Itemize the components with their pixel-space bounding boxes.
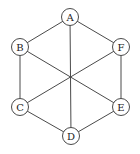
node-a: A (62, 9, 79, 26)
node-b: B (12, 39, 29, 56)
edges-layer (20, 17, 121, 136)
node-label: F (118, 42, 125, 53)
node-label: D (67, 131, 75, 142)
node-label: A (65, 12, 74, 23)
node-label: C (16, 102, 24, 113)
hexagon-graph-diagram: ABCDEF (0, 0, 140, 154)
node-label: B (16, 42, 23, 53)
node-c: C (12, 99, 29, 116)
node-e: E (113, 99, 130, 116)
node-f: F (113, 39, 130, 56)
node-label: E (117, 102, 124, 113)
node-d: D (63, 128, 80, 145)
